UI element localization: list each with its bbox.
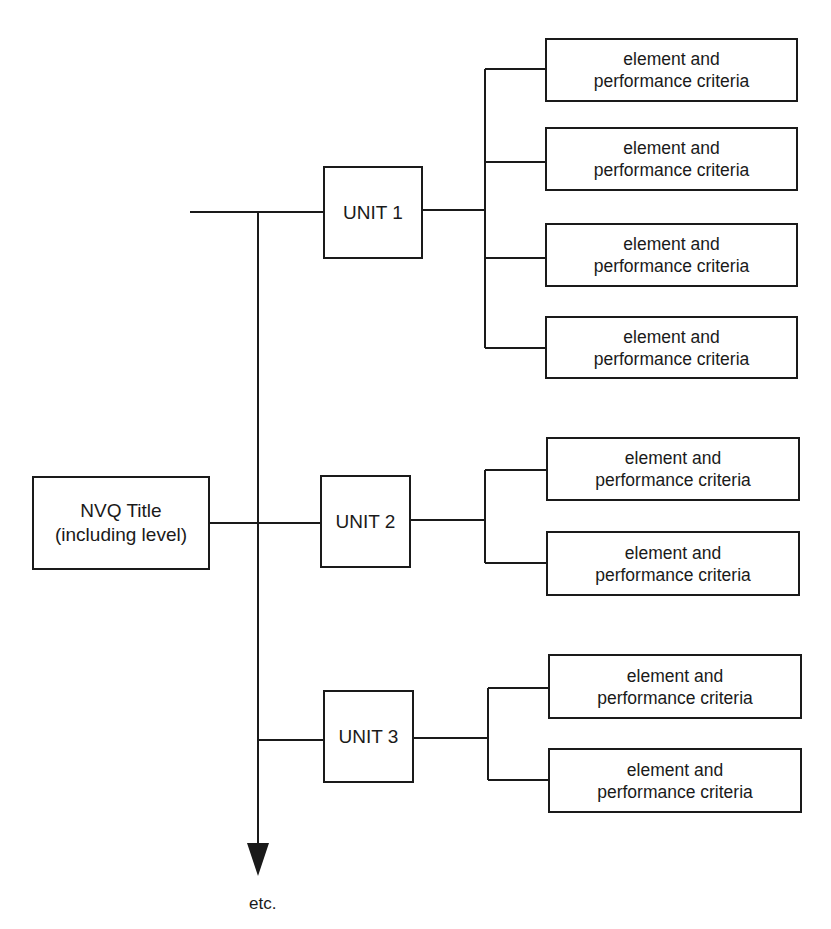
element-label: element and: [595, 542, 751, 564]
nvq-structure-diagram: NVQ Title (including level) UNIT 1 UNIT …: [0, 0, 831, 929]
unit-1-element-4: element and performance criteria: [545, 316, 798, 379]
element-label: element and: [594, 326, 750, 348]
unit-1-label: UNIT 1: [343, 202, 403, 224]
unit-3-element-2: element and performance criteria: [548, 748, 802, 813]
nvq-level-label: (including level): [55, 523, 187, 547]
element-label: element and: [597, 665, 753, 687]
criteria-label: performance criteria: [597, 687, 753, 709]
element-label: element and: [594, 233, 750, 255]
unit-2-element-2: element and performance criteria: [546, 531, 800, 596]
criteria-label: performance criteria: [597, 781, 753, 803]
element-label: element and: [594, 48, 750, 70]
element-label: element and: [597, 759, 753, 781]
unit-2-element-1: element and performance criteria: [546, 437, 800, 501]
arrow-down-icon: [247, 843, 269, 876]
nvq-title-box: NVQ Title (including level): [32, 476, 210, 570]
criteria-label: performance criteria: [594, 255, 750, 277]
criteria-label: performance criteria: [594, 348, 750, 370]
element-label: element and: [594, 137, 750, 159]
criteria-label: performance criteria: [594, 70, 750, 92]
unit-3-box: UNIT 3: [323, 690, 414, 783]
criteria-label: performance criteria: [595, 564, 751, 586]
unit-2-label: UNIT 2: [336, 511, 396, 533]
nvq-title-label: NVQ Title: [55, 499, 187, 523]
element-label: element and: [595, 447, 751, 469]
continuation-label: etc.: [249, 894, 276, 914]
unit-1-element-1: element and performance criteria: [545, 38, 798, 102]
unit-3-element-1: element and performance criteria: [548, 654, 802, 719]
criteria-label: performance criteria: [594, 159, 750, 181]
unit-1-box: UNIT 1: [323, 166, 423, 259]
unit-2-box: UNIT 2: [320, 475, 411, 568]
unit-1-element-3: element and performance criteria: [545, 223, 798, 287]
unit-1-element-2: element and performance criteria: [545, 127, 798, 191]
unit-3-label: UNIT 3: [339, 726, 399, 748]
criteria-label: performance criteria: [595, 469, 751, 491]
